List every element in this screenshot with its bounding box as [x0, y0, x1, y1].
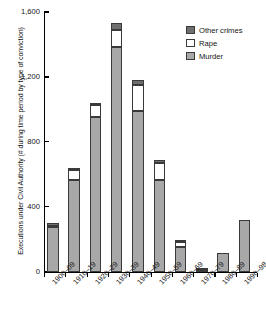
y-tick-label: 800: [27, 137, 40, 146]
legend-swatch-other-crimes: [186, 26, 195, 34]
bar-segment-murder: [132, 111, 144, 272]
bar-segment-murder: [90, 117, 102, 272]
bar-1930-39: [111, 23, 123, 271]
bar-segment-other-crimes: [154, 160, 166, 162]
bar-segment-other-crimes: [90, 103, 102, 105]
legend-swatch-murder: [186, 52, 195, 60]
legend-item-rape: Rape: [186, 37, 242, 49]
bar-segment-other-crimes: [47, 223, 59, 226]
bar-segment-murder: [47, 227, 59, 272]
y-tick-label: 1,600: [21, 7, 40, 16]
bar-segment-murder: [68, 180, 80, 272]
x-tick-mark: [44, 273, 45, 277]
legend-label-rape: Rape: [199, 39, 217, 48]
legend-swatch-rape: [186, 39, 195, 47]
bar-segment-murder: [111, 47, 123, 272]
bar-segment-other-crimes: [175, 240, 187, 242]
bar-segment-murder: [154, 180, 166, 272]
legend-label-murder: Murder: [199, 52, 223, 61]
executions-stacked-bar-chart: Executions under Civil Authority (# duri…: [0, 0, 266, 318]
y-tick-label: 0: [36, 267, 40, 276]
chart-legend: Other crimes Rape Murder: [186, 24, 242, 63]
y-tick-mark: [44, 76, 49, 77]
bar-segment-rape: [111, 30, 123, 47]
bar-segment-other-crimes: [132, 80, 144, 85]
y-tick-label: 400: [27, 202, 40, 211]
bar-1940-49: [132, 80, 144, 271]
bar-1950-59: [154, 160, 166, 271]
bar-segment-other-crimes: [111, 23, 123, 29]
y-tick-mark: [44, 141, 49, 142]
bar-1900-09: [47, 223, 59, 272]
bar-segment-rape: [90, 105, 102, 116]
bar-1910-19: [68, 168, 80, 272]
legend-item-other-crimes: Other crimes: [186, 24, 242, 36]
bar-1920-29: [90, 103, 102, 272]
bar-segment-rape: [154, 163, 166, 180]
bar-segment-rape: [68, 170, 80, 180]
legend-item-murder: Murder: [186, 50, 242, 62]
legend-label-other-crimes: Other crimes: [199, 26, 242, 35]
bar-segment-other-crimes: [68, 168, 80, 170]
y-tick-label: 1,200: [21, 72, 40, 81]
y-axis-title: Executions under Civil Authority (# duri…: [17, 7, 25, 275]
y-axis-line: [44, 12, 45, 273]
y-tick-mark: [44, 11, 49, 12]
bar-segment-rape: [175, 242, 187, 248]
bar-segment-rape: [132, 85, 144, 111]
y-tick-mark: [44, 206, 49, 207]
